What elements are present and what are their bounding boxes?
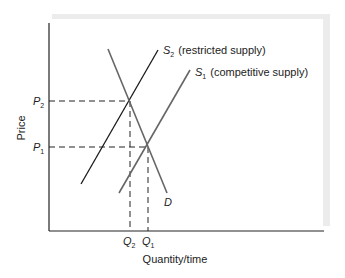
q2-label: Q2 — [123, 235, 136, 249]
p2-label: P2 — [33, 95, 44, 109]
p1-label: P1 — [33, 141, 44, 155]
y-axis-title: Price — [15, 115, 27, 140]
s1-label: S1(competitive supply) — [195, 66, 308, 80]
panel-shadow-right — [323, 14, 330, 226]
demand-label: D — [164, 196, 172, 208]
s2-label: S2(restricted supply) — [163, 44, 266, 58]
panel-shadow-top — [52, 14, 330, 19]
s2-curve — [81, 50, 158, 184]
supply-demand-diagram: S2(restricted supply) S1(competitive sup… — [0, 0, 345, 278]
q1-label: Q1 — [142, 235, 155, 249]
x-axis-title: Quantity/time — [143, 253, 208, 265]
